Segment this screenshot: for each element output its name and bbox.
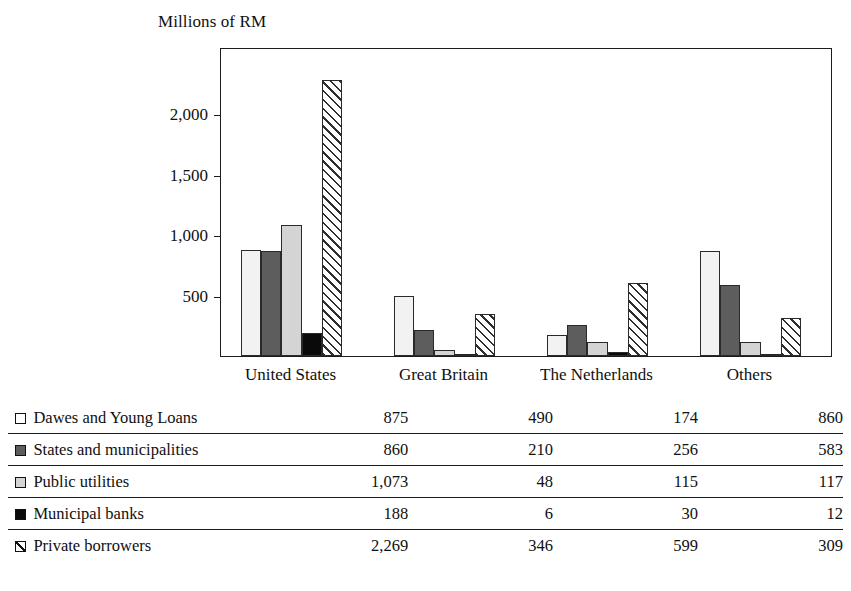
bar	[322, 80, 342, 356]
bar	[761, 354, 781, 356]
bar	[475, 314, 495, 356]
bar	[434, 350, 454, 356]
legend-swatch-cell	[8, 402, 33, 434]
bar	[241, 250, 261, 356]
bar	[587, 342, 607, 356]
legend-series-name: Dawes and Young Loans	[33, 402, 262, 434]
legend-value-cell: 174	[553, 402, 698, 434]
y-axis-tick	[214, 236, 221, 237]
x-axis-category-label: Others	[727, 365, 772, 385]
y-axis-tick	[214, 297, 221, 298]
bar	[302, 333, 322, 356]
legend-value-cell: 583	[698, 434, 843, 466]
legend-value-cell: 30	[553, 498, 698, 530]
plot-inner-surface: 5001,0001,5002,000	[221, 49, 831, 356]
y-axis-tick-label: 2,000	[170, 105, 208, 125]
legend-series-name: Public utilities	[33, 466, 262, 498]
x-axis-category-label: United States	[245, 365, 336, 385]
legend-table-row: Dawes and Young Loans875490174860	[8, 402, 843, 434]
legend-value-cell: 2,269	[263, 530, 408, 562]
y-axis-tick-label: 1,000	[170, 226, 208, 246]
y-axis-tick-label: 500	[183, 287, 209, 307]
legend-value-cell: 117	[698, 466, 843, 498]
legend-value-cell: 188	[263, 498, 408, 530]
legend-value-cell: 256	[553, 434, 698, 466]
legend-value-cell: 309	[698, 530, 843, 562]
legend-value-cell: 860	[263, 434, 408, 466]
legend-table-row: Municipal banks18863012	[8, 498, 843, 530]
legend-series-name: Private borrowers	[33, 530, 262, 562]
bar	[281, 225, 301, 356]
bar-chart-figure: Millions of RM 5001,0001,5002,000 Dawes …	[0, 0, 851, 591]
legend-series-name: States and municipalities	[33, 434, 262, 466]
legend-value-cell: 6	[408, 498, 553, 530]
legend-data-table: Dawes and Young Loans875490174860States …	[8, 402, 843, 561]
legend-value-cell: 210	[408, 434, 553, 466]
legend-value-cell: 875	[263, 402, 408, 434]
y-axis-tick	[214, 115, 221, 116]
legend-value-cell: 1,073	[263, 466, 408, 498]
legend-swatch-cell	[8, 530, 33, 562]
plot-area: 5001,0001,5002,000	[220, 48, 832, 357]
bar	[547, 335, 567, 356]
legend-table-row: Private borrowers2,269346599309	[8, 530, 843, 562]
x-axis-category-label: The Netherlands	[540, 365, 653, 385]
bar	[781, 318, 801, 356]
y-axis-caption: Millions of RM	[158, 12, 266, 32]
bar	[608, 352, 628, 356]
x-axis-category-label: Great Britain	[399, 365, 488, 385]
legend-table-body: Dawes and Young Loans875490174860States …	[8, 402, 843, 561]
y-axis-tick-label: 1,500	[170, 166, 208, 186]
square-outline-icon	[15, 413, 26, 424]
legend-value-cell: 12	[698, 498, 843, 530]
legend-value-cell: 48	[408, 466, 553, 498]
square-black-icon	[15, 509, 26, 520]
bar	[740, 342, 760, 356]
legend-value-cell: 115	[553, 466, 698, 498]
legend-value-cell: 346	[408, 530, 553, 562]
legend-value-cell: 490	[408, 402, 553, 434]
bar	[414, 330, 434, 356]
bar	[261, 251, 281, 356]
legend-table-row: Public utilities1,07348115117	[8, 466, 843, 498]
legend-swatch-cell	[8, 434, 33, 466]
bar	[455, 354, 475, 356]
legend-swatch-cell	[8, 466, 33, 498]
bar	[567, 325, 587, 356]
bar	[720, 285, 740, 356]
legend-value-cell: 599	[553, 530, 698, 562]
bar	[700, 251, 720, 356]
legend-series-name: Municipal banks	[33, 498, 262, 530]
square-hatched-icon	[15, 541, 26, 552]
square-dark-gray-icon	[15, 445, 26, 456]
legend-value-cell: 860	[698, 402, 843, 434]
bar	[394, 296, 414, 356]
legend-table-row: States and municipalities860210256583	[8, 434, 843, 466]
bar	[628, 283, 648, 356]
legend-swatch-cell	[8, 498, 33, 530]
y-axis-tick	[214, 176, 221, 177]
square-light-gray-icon	[15, 477, 26, 488]
